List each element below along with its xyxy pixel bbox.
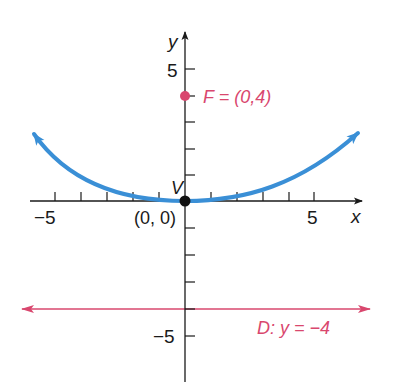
y-tick-label-5: 5 [167,60,178,81]
y-axis-label: y [166,31,179,52]
vertex-letter-label: V [171,178,185,198]
y-tick-label-neg5: −5 [153,326,175,347]
parabola-chart: y x 5 −5 −5 5 F = (0,4) V (0, 0) D: y = … [0,0,399,382]
x-tick-label-neg5: −5 [34,207,56,228]
directrix-label: D: y = −4 [257,318,330,338]
x-tick-label-5: 5 [307,207,318,228]
y-axis [185,32,195,382]
parabola-curve [34,133,358,201]
focus-point [180,91,190,101]
focus-label: F = (0,4) [203,87,271,107]
x-axis-label: x [350,206,362,227]
vertex-coord-label: (0, 0) [134,208,176,228]
